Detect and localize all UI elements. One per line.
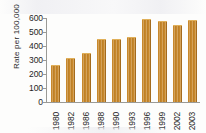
y-tick-mark [43, 88, 47, 89]
x-tick-label: 1982 [66, 112, 76, 131]
y-tick-mark [43, 32, 47, 33]
bar-slot [94, 18, 109, 102]
bar [66, 58, 75, 102]
x-tick-label: 1986 [81, 112, 91, 131]
bar-slot [154, 18, 169, 102]
x-tick-slot: 1980 [48, 104, 63, 133]
bar [51, 65, 60, 102]
bar [127, 37, 136, 102]
y-tick-label: 100 [29, 84, 43, 92]
bar [112, 39, 121, 102]
y-tick-mark [43, 18, 47, 19]
plot-area [46, 18, 200, 102]
x-tick-slot: 2002 [170, 104, 185, 133]
bar [142, 19, 151, 102]
y-axis-tick-labels: 6005004003002001000 [20, 14, 43, 103]
x-tick-slot: 1996 [139, 104, 154, 133]
bar-slot [78, 18, 93, 102]
x-tick-label: 1993 [127, 112, 137, 131]
x-axis-line [46, 102, 200, 103]
bar-slot [124, 18, 139, 102]
bar [173, 25, 182, 102]
bar-slot [170, 18, 185, 102]
bar-slot [139, 18, 154, 102]
y-tick-label: 300 [29, 56, 43, 64]
x-tick-slot: 1993 [124, 104, 139, 133]
scan-artifact-top [0, 0, 206, 14]
bar [188, 20, 197, 102]
x-tick-label: 2002 [172, 112, 182, 131]
bar [82, 53, 91, 102]
y-tick-mark [43, 46, 47, 47]
bar-slot [63, 18, 78, 102]
x-axis-tick-labels: 1980198219861988199019931996199920022003 [48, 104, 200, 133]
y-tick-mark [43, 102, 47, 103]
x-tick-label: 2003 [187, 112, 197, 131]
x-tick-label: 1980 [51, 112, 61, 131]
x-tick-slot: 1988 [94, 104, 109, 133]
bar-slot [185, 18, 200, 102]
x-tick-label: 1988 [96, 112, 106, 131]
y-tick-label: 600 [29, 14, 43, 22]
x-tick-slot: 1982 [63, 104, 78, 133]
bar-series [48, 18, 200, 102]
bar [97, 39, 106, 102]
bar-chart: Rate per 100,000 6005004003002001000 198… [0, 0, 206, 133]
x-tick-slot: 1990 [109, 104, 124, 133]
y-tick-label: 400 [29, 42, 43, 50]
x-tick-slot: 2003 [185, 104, 200, 133]
y-tick-mark [43, 74, 47, 75]
x-tick-slot: 1986 [78, 104, 93, 133]
bar [158, 21, 167, 102]
x-tick-slot: 1999 [154, 104, 169, 133]
x-tick-label: 1996 [142, 112, 152, 131]
bar-slot [109, 18, 124, 102]
y-tick-label: 200 [29, 70, 43, 78]
x-tick-label: 1999 [157, 112, 167, 131]
y-tick-mark [43, 60, 47, 61]
x-tick-label: 1990 [111, 112, 121, 131]
y-tick-label: 500 [29, 28, 43, 36]
bar-slot [48, 18, 63, 102]
